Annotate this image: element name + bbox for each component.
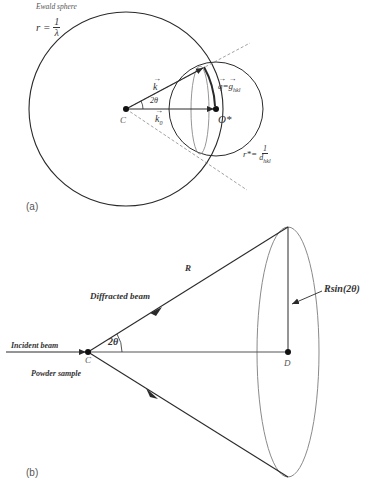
k0-label-text: k [155, 114, 159, 124]
k0-subscript: 0 [159, 120, 162, 126]
r-symbol: r = [36, 21, 50, 33]
k-label-text: k [153, 82, 157, 92]
origin-label-o-star: O* [218, 114, 231, 125]
g-subscript: hkl [233, 87, 240, 93]
panel-a-tag: (a) [26, 202, 38, 212]
q-label: q [218, 82, 223, 91]
r-denominator: λ [55, 28, 59, 38]
panel-a-diagram [29, 12, 263, 206]
powder-sample-label: Powder sample [31, 370, 81, 378]
origin-point-o [213, 106, 219, 112]
q-vector [204, 67, 215, 106]
radius-pointer-arrow [292, 291, 322, 304]
k0-label: k0 [155, 114, 162, 126]
angle-2theta-b: 2θ [108, 337, 118, 347]
g-label: g [229, 82, 234, 91]
rstar-fraction: 1 dhkl [259, 145, 270, 164]
cone-radius-label: Rsin(2θ) [324, 284, 360, 294]
diagram-canvas [0, 0, 371, 496]
panel-b-diagram [6, 227, 322, 477]
angle-arc-a [141, 101, 143, 109]
rstar-symbol: r*= [243, 149, 257, 159]
detector-point-d [285, 349, 291, 355]
ewald-radius-formula: r = 1 λ [36, 17, 60, 38]
incident-beam-label: Incident beam [11, 342, 58, 350]
center-label-c-a: C [120, 116, 126, 125]
lower-diffracted-beam [88, 352, 288, 477]
ewald-sphere-title: Ewald sphere [36, 3, 77, 11]
upper-diffracted-beam [88, 227, 288, 352]
diffracted-beam-label: Diffracted beam [90, 292, 150, 301]
r-fraction: 1 λ [53, 17, 60, 38]
reciprocal-radius-formula: r*= 1 dhkl [243, 145, 271, 164]
center-label-c-b: C [85, 356, 91, 365]
intersection-ellipse [191, 66, 209, 154]
k-label: k [153, 82, 157, 92]
panel-b-tag: (b) [26, 468, 38, 478]
q-equals-g-label: q=ghkl [218, 82, 240, 93]
rstar-subscript: hkl [263, 158, 270, 164]
detector-label-d: D [284, 359, 291, 368]
radius-r-label: R [185, 264, 191, 273]
angle-2theta-a: 2θ [150, 97, 158, 105]
rstar-denominator: dhkl [259, 154, 270, 164]
center-point-c [123, 106, 129, 112]
